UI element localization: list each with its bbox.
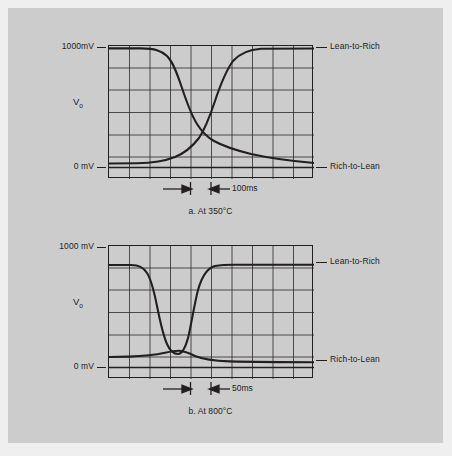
chart-b-y-top-label: 1000 mV — [34, 241, 94, 251]
chart-a-y-bottom-label: 0 mV — [34, 161, 94, 171]
chart-a-time-label: 100ms — [232, 183, 258, 193]
chart-a-350c: 1000mV 0 mV Vo — [8, 30, 443, 242]
chart-b-caption: b. At 800°C — [108, 406, 313, 416]
chart-b-y-bottom-tick — [97, 367, 106, 368]
chart-a-time-arrows — [108, 182, 338, 204]
chart-a-y-top-label: 1000mV — [34, 41, 94, 51]
chart-a-lean-to-rich-curve — [109, 48, 314, 163]
chart-a-y-bottom-tick — [97, 167, 106, 168]
chart-b-label-rich-to-lean: Rich-to-Lean — [330, 354, 380, 364]
chart-a-rich-to-lean-leader — [316, 167, 327, 168]
chart-b-rich-to-lean-curve — [109, 351, 314, 362]
chart-b-lean-to-rich-curve — [109, 265, 314, 354]
chart-b-y-top-tick — [97, 247, 106, 248]
chart-b-label-lean-to-rich: Lean-to-Rich — [330, 256, 380, 266]
figure-panel: 1000mV 0 mV Vo — [8, 8, 443, 443]
chart-b-rich-to-lean-leader — [316, 360, 327, 361]
chart-b-time-label: 50ms — [232, 383, 253, 393]
chart-b-lean-to-rich-leader — [316, 262, 327, 263]
chart-a-label-rich-to-lean: Rich-to-Lean — [330, 161, 380, 171]
chart-b-curves — [109, 246, 314, 379]
chart-b-plot-area — [108, 245, 313, 378]
chart-a-lean-to-rich-leader — [316, 47, 327, 48]
chart-b-time-marker: 50ms — [108, 382, 338, 404]
chart-b-y-axis-title: Vo — [63, 296, 93, 309]
chart-a-label-lean-to-rich: Lean-to-Rich — [330, 41, 380, 51]
chart-a-rich-to-lean-curve — [109, 49, 314, 164]
chart-b-time-arrows — [108, 382, 338, 404]
chart-a-caption: a. At 350°C — [108, 206, 313, 216]
chart-a-time-marker: 100ms — [108, 182, 338, 204]
chart-a-curves — [109, 46, 314, 179]
chart-a-plot-area — [108, 45, 313, 178]
chart-a-y-axis-title: Vo — [63, 96, 93, 109]
chart-b-y-bottom-label: 0 mV — [34, 361, 94, 371]
chart-a-y-top-tick — [97, 47, 106, 48]
chart-b-800c: 1000 mV 0 mV Vo — [8, 230, 443, 442]
